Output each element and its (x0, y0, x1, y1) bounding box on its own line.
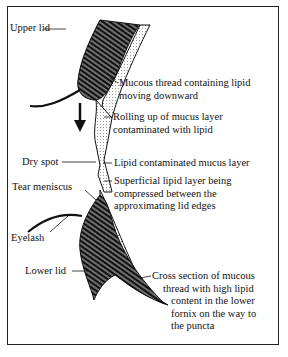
label-line: contaminated with lipid (113, 124, 223, 137)
label-upper-lid: Upper lid (10, 22, 50, 35)
upper-eyelash (30, 90, 80, 106)
label-line: Mucous thread containing lipid (119, 77, 251, 90)
label-lower-lid: Lower lid (25, 265, 66, 278)
label-line: Rolling up of mucus layer (113, 111, 223, 124)
label-line: compressed between the (114, 188, 232, 201)
label-eyelash: Eyelash (11, 232, 44, 245)
label-lipid-mucus-layer: Lipid contaminated mucus layer (114, 157, 250, 170)
label-dry-spot: Dry spot (22, 156, 58, 169)
label-line: approximating lid edges (114, 200, 232, 213)
label-cross-section: Cross section of mucous thread with high… (152, 270, 256, 333)
label-line: moving downward (119, 90, 251, 103)
lower-eyelash (28, 215, 82, 232)
label-line: fornix on the way to (152, 308, 256, 321)
label-line: the puncta (152, 320, 256, 333)
label-line: Superficial lipid layer being (114, 175, 232, 188)
label-line: Cross section of mucous (152, 270, 256, 283)
label-rolling-up: Rolling up of mucus layer contaminated w… (113, 111, 223, 136)
down-arrow-head (74, 120, 86, 132)
label-superficial-lipid: Superficial lipid layer being compressed… (114, 175, 232, 213)
label-tear-meniscus: Tear meniscus (12, 181, 72, 194)
label-line: content in the lower (152, 295, 256, 308)
label-line: thread with high lipid (152, 283, 256, 296)
label-mucous-thread: Mucous thread containing lipid moving do… (119, 77, 251, 102)
